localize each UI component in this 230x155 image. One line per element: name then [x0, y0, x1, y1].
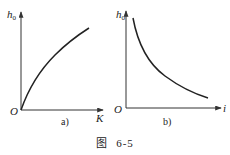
- panel-a-x-axis-label: K: [96, 113, 103, 124]
- panel-b-label: b): [163, 117, 171, 127]
- panel-b-y-sub: 0: [122, 14, 126, 22]
- panel-a-origin-label: O: [10, 106, 18, 117]
- panel-a-plot: [21, 12, 103, 110]
- panel-b-x-axis-label: i: [223, 103, 226, 114]
- panel-a-curve: [21, 28, 89, 110]
- panel-b-origin-label: O: [114, 104, 122, 115]
- figure-caption: 图6-5: [0, 134, 230, 150]
- caption-number: 6-5: [116, 137, 134, 149]
- panel-b-plot: [126, 11, 221, 108]
- figure-canvas: [0, 0, 230, 155]
- panel-a-label: a): [61, 117, 69, 127]
- panel-b-curve: [133, 18, 208, 98]
- panel-a-y-sub: 0: [13, 14, 17, 22]
- panel-b-y-axis-label: h0: [116, 9, 125, 22]
- caption-prefix: 图: [96, 137, 108, 149]
- panel-a-y-axis-label: h0: [7, 9, 16, 22]
